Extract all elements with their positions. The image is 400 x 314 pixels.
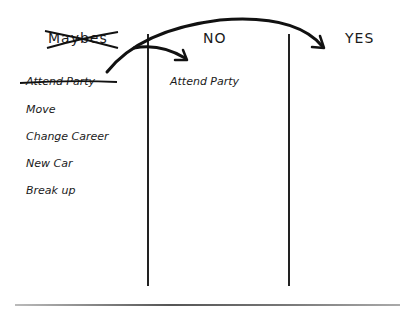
arrow-to-yes-icon	[107, 19, 324, 72]
arrow-to-no-icon	[134, 47, 187, 60]
arrows	[0, 0, 400, 314]
